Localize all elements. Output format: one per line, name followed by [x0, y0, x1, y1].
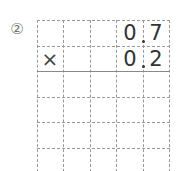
- grid-line: [37, 97, 170, 98]
- multiplicand-tenths-digit: 7: [143, 20, 169, 45]
- grid-line: [37, 122, 170, 123]
- multiplier-tenths-digit: 2: [143, 46, 169, 71]
- calculation-grid: 0 7 × 0 2: [37, 20, 170, 171]
- multiplicand-ones-digit: 0: [117, 20, 143, 45]
- problem-number-label: ②: [9, 21, 25, 37]
- grid-line: [37, 148, 170, 149]
- multiply-operator: ×: [37, 46, 63, 71]
- multiplier-ones-digit: 0: [117, 46, 143, 71]
- answer-separator-line: [37, 71, 170, 72]
